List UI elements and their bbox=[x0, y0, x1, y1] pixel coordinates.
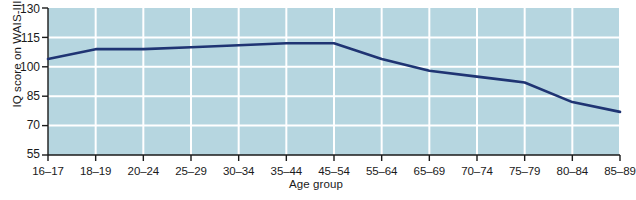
x-tick-label-4: 30–34 bbox=[223, 165, 254, 177]
x-tick-label-5: 35–44 bbox=[271, 165, 302, 177]
x-tick-label-0: 16–17 bbox=[32, 165, 63, 177]
y-axis-ticks bbox=[42, 8, 48, 155]
x-tick-label-1: 18–19 bbox=[80, 165, 111, 177]
x-tick-label-3: 25–29 bbox=[175, 165, 206, 177]
x-axis-title: Age group bbox=[0, 178, 632, 190]
x-tick-label-2: 20–24 bbox=[128, 165, 159, 177]
x-tick-label-6: 45–54 bbox=[318, 165, 349, 177]
x-tick-label-9: 70–74 bbox=[461, 165, 492, 177]
x-tick-label-8: 65–69 bbox=[414, 165, 445, 177]
x-tick-label-11: 80–84 bbox=[557, 165, 588, 177]
x-tick-label-12: 85–89 bbox=[604, 165, 635, 177]
x-tick-label-10: 75–79 bbox=[509, 165, 540, 177]
x-tick-label-7: 55–64 bbox=[366, 165, 397, 177]
x-axis-ticks bbox=[48, 155, 620, 161]
